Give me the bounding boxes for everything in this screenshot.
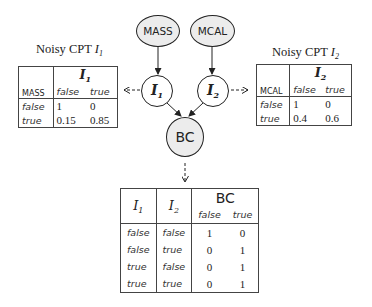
cpt2-col-false: false (290, 82, 323, 97)
edge-i2-bc (189, 103, 203, 116)
cpt2-cell: 0.6 (322, 111, 351, 126)
cpt1-cell: 1 (53, 99, 87, 114)
cpt1-child: I1 (53, 67, 117, 85)
cpt2-child: I2 (290, 65, 352, 83)
cpt1-table: MASS I1 false true false 1 0 true 0.15 0… (18, 66, 118, 128)
cpt2-cell: 0 (322, 97, 351, 112)
node-mcal-label: MCAL (198, 25, 227, 37)
node-i1: I1 (141, 75, 173, 107)
bc-row-p2: false (156, 224, 192, 242)
node-i2: I2 (197, 75, 229, 107)
cpt1-col-true: true (87, 84, 117, 99)
bc-parent-i2: I2 (156, 189, 192, 224)
bc-row-p2: true (156, 275, 192, 293)
cpt2-parent: MCAL (257, 65, 290, 97)
bc-parent-i1: I1 (121, 189, 157, 224)
cpt1-col-false: false (53, 84, 87, 99)
cpt2-cell: 1 (290, 97, 323, 112)
node-mass: MASS (136, 15, 180, 47)
cpt1-title: Noisy CPT I1 (36, 42, 103, 58)
node-bc: BC (166, 117, 204, 157)
bc-cpt-table: I1 I2 BC false true false false 1 0 fals… (120, 188, 259, 293)
bc-child: BC (192, 189, 259, 207)
cpt1-cell: 0.85 (87, 113, 117, 128)
bc-cell: 1 (227, 275, 259, 293)
bc-col-false: false (192, 206, 227, 224)
bc-row-p1: false (121, 241, 157, 258)
node-mass-label: MASS (143, 25, 173, 37)
bc-cell: 0 (192, 241, 227, 258)
bc-row-p1: false (121, 224, 157, 242)
bc-cell: 1 (227, 241, 259, 258)
bc-row-p1: true (121, 275, 157, 293)
cpt2-row-label: false (257, 97, 290, 112)
bc-cell: 1 (227, 258, 259, 275)
bc-cell: 0 (192, 275, 227, 293)
cpt2-cell: 0.4 (290, 111, 323, 126)
bc-cell: 0 (227, 224, 259, 242)
bc-cell: 0 (192, 258, 227, 275)
cpt1-cell: 0 (87, 99, 117, 114)
cpt1-cell: 0.15 (53, 113, 87, 128)
edge-i1-bc (167, 103, 181, 116)
bc-cell: 1 (192, 224, 227, 242)
cpt1-row-label: false (19, 99, 54, 114)
cpt2-table: MCAL I2 false true false 1 0 true 0.4 0.… (256, 64, 352, 126)
bc-col-true: true (227, 206, 259, 224)
node-bc-label: BC (175, 129, 194, 145)
cpt2-row-label: true (257, 111, 290, 126)
cpt1-row-label: true (19, 113, 54, 128)
bc-row-p2: true (156, 241, 192, 258)
node-i2-label: I2 (207, 82, 219, 100)
node-mcal: MCAL (190, 15, 235, 47)
cpt1-parent: MASS (19, 67, 54, 99)
cpt2-col-true: true (322, 82, 351, 97)
node-i1-label: I1 (151, 82, 163, 100)
cpt2-title: Noisy CPT I2 (272, 45, 339, 61)
bc-row-p2: false (156, 258, 192, 275)
bc-row-p1: true (121, 258, 157, 275)
